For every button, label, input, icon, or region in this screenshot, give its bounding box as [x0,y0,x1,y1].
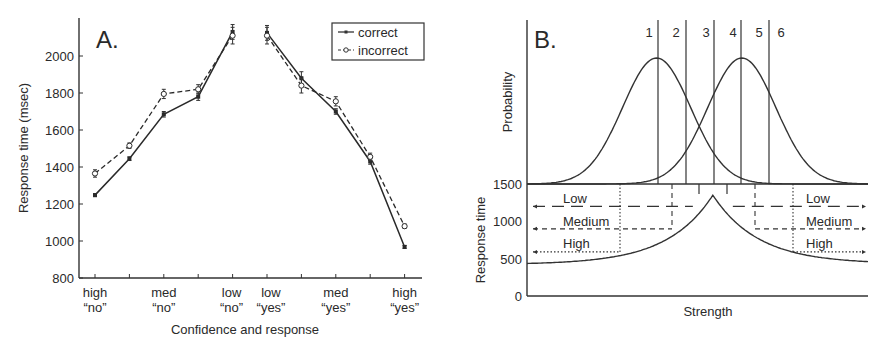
arrow-right-icon [862,227,866,231]
band-label-left: Medium [563,214,609,229]
criterion-label: 1 [645,25,652,40]
band-label-right: Low [806,191,830,206]
panel-a-x-label: Confidence and response [171,322,319,337]
panel-a-y-ticks: 800100012001400160018002000 [45,49,83,286]
incorrect-marker [402,224,407,229]
incorrect-marker [368,154,373,159]
incorrect-line [95,36,233,174]
x-tick-label-line1: low [222,285,242,300]
arrow-left-icon [533,204,537,208]
criterion-label: 6 [777,25,784,40]
panel-a-y-label: Response time (msec) [16,83,31,213]
x-tick-label-line1: high [83,285,108,300]
incorrect-marker [92,171,97,176]
panel-a: A. 800100012001400160018002000 high“no”m… [16,18,424,337]
arrow-right-icon [862,250,866,254]
figure: A. 800100012001400160018002000 high“no”m… [0,0,878,349]
x-tick-label-line1: low [261,285,281,300]
correct-marker [196,95,200,99]
y-tick-label: 1200 [45,197,74,212]
y-tick-label: 0 [515,289,522,304]
x-tick-label-line1: high [392,285,417,300]
band-label-left: High [563,236,590,251]
incorrect-marker [264,33,269,38]
criterion-label: 4 [729,25,736,40]
x-tick-label-line2: “no” [220,300,243,315]
correct-marker [403,245,407,249]
criterion-label: 5 [755,25,762,40]
incorrect-marker [161,91,166,96]
legend-correct-label: correct [358,25,398,40]
signal-distribution [527,58,868,184]
incorrect-marker [299,83,304,88]
band-label-left: Low [563,191,587,206]
y-tick-label: 2000 [45,49,74,64]
x-tick-label-line1: med [323,285,348,300]
correct-marker [162,112,166,116]
y-tick-label: 1400 [45,160,74,175]
x-tick-label-line2: “yes” [390,300,419,315]
panel-b-confidence-bands: LowLowMediumMediumHighHigh [533,184,866,254]
panel-a-x-ticks: high“no”med“no”low“no”low“yes”med“yes”hi… [83,274,419,315]
x-tick-label-line2: “no” [152,300,175,315]
incorrect-marker [333,99,338,104]
panel-b: B. Probability Response time Strength 05… [473,20,868,319]
x-tick-label-line2: “yes” [257,300,286,315]
arrow-left-icon [533,227,537,231]
arrow-right-icon [862,204,866,208]
incorrect-marker [127,143,132,148]
noise-distribution [527,58,868,184]
panel-b-criteria: 123456 [645,20,784,194]
criterion-label: 3 [702,25,709,40]
y-tick-label: 800 [52,271,74,286]
x-tick-label-line2: “no” [83,300,106,315]
legend-correct-marker-icon [345,31,348,34]
incorrect-marker [196,87,201,92]
panel-b-label: B. [534,26,557,53]
legend-incorrect-label: incorrect [358,43,408,58]
x-tick-label-line2: “yes” [321,300,350,315]
panel-b-x-label: Strength [683,304,732,319]
panel-b-probability-label: Probability [500,71,515,132]
panel-b-y-ticks: 050010001500 [493,177,522,304]
panel-a-label: A. [96,26,119,53]
incorrect-marker [230,33,235,38]
y-tick-label: 500 [500,252,522,267]
y-tick-label: 1000 [45,234,74,249]
y-tick-label: 1000 [493,214,522,229]
correct-marker [93,193,97,197]
panel-b-response-time-label: Response time [473,197,488,284]
legend-incorrect-marker-icon [344,48,348,52]
panel-b-distributions [527,58,868,184]
band-label-right: High [806,236,833,251]
y-tick-label: 1800 [45,86,74,101]
y-tick-label: 1600 [45,123,74,138]
correct-marker [127,157,131,161]
band-label-right: Medium [806,214,852,229]
legend: correct incorrect [332,23,424,60]
y-tick-label: 1500 [493,177,522,192]
arrow-left-icon [533,250,537,254]
criterion-label: 2 [672,25,679,40]
x-tick-label-line1: med [151,285,176,300]
correct-marker [334,110,338,114]
